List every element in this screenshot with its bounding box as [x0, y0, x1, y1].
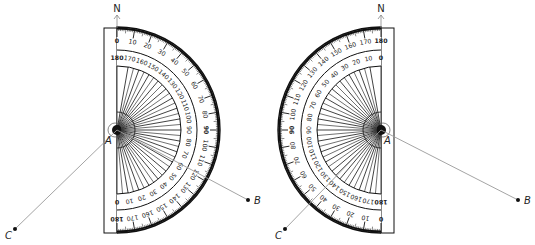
inner-scale-number: 0 — [114, 199, 119, 206]
point-b-label: B — [524, 195, 531, 206]
outer-scale-number: 80 — [201, 110, 209, 119]
ray-ac — [15, 130, 117, 229]
protractor-figure-right: 1800170101602015030140401305012060110701… — [275, 3, 531, 241]
point-c-label: C — [275, 230, 282, 241]
ray-ab — [381, 130, 518, 200]
protractor-diagram: 0180101702016030150401405013060120701108… — [0, 0, 535, 245]
outer-scale-number: 180 — [110, 216, 124, 223]
outer-scale-number: 90 — [203, 126, 210, 135]
outer-scale-number: 180 — [375, 37, 389, 44]
outer-scale-number: 0 — [115, 37, 120, 44]
point-c-dot — [13, 227, 17, 231]
outer-scale-number: 10 — [361, 214, 370, 222]
diagram-canvas: 0180101702016030150401405013060120701108… — [0, 0, 535, 245]
point-c-dot — [283, 227, 287, 231]
north-label: N — [377, 3, 384, 14]
point-b-dot — [516, 198, 520, 202]
inner-scale-number: 0 — [379, 54, 384, 61]
north-label: N — [113, 3, 120, 14]
inner-scale-number: 10 — [125, 198, 134, 206]
outer-scale-number: 90 — [288, 125, 295, 134]
outer-scale-number: 10 — [128, 37, 137, 45]
point-b-dot — [246, 198, 250, 202]
outer-scale-number: 80 — [288, 141, 296, 150]
inner-scale-number: 180 — [374, 199, 388, 206]
inner-scale-number: 180 — [111, 54, 125, 61]
inner-scale-number: 80 — [185, 138, 193, 147]
vertex-a-label: A — [383, 135, 391, 146]
inner-scale-number: 10 — [364, 54, 373, 62]
protractor-figure-left: 0180101702016030150401405013060120701108… — [5, 3, 261, 241]
vertex-a-label: A — [104, 135, 112, 146]
inner-scale-number: 90 — [186, 126, 193, 134]
outer-scale-number: 0 — [378, 216, 383, 223]
inner-scale-number: 80 — [305, 113, 313, 122]
inner-scale-number: 90 — [305, 126, 312, 134]
point-b-label: B — [254, 195, 261, 206]
point-c-label: C — [5, 230, 12, 241]
